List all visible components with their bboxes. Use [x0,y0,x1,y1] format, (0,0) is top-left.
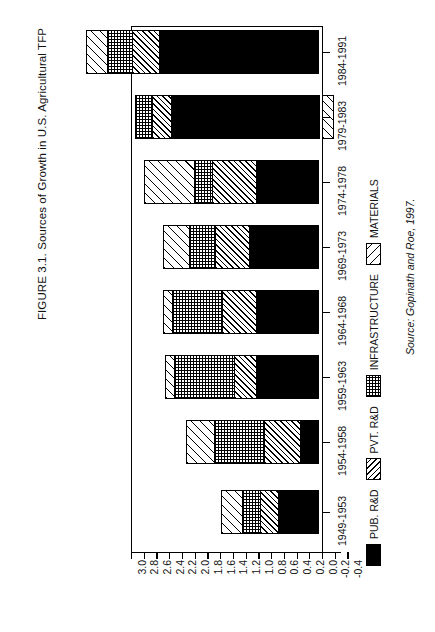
category-tick [322,312,330,313]
bar-segment-pub-r-d [278,490,319,534]
bar-1984-1991 [86,30,322,74]
value-tick-label: -0.4 [352,560,364,600]
bar-segment-pub-r-d [256,355,319,399]
bar-segment-infrastructure [242,490,261,534]
figure-title: FIGURE 3.1. Sources of Growth in U.S. Ag… [36,24,48,324]
legend-label: INFRASTRUCTURE [368,274,380,370]
value-tick [322,552,323,559]
legend-item-pub-r-d: PUB. R&D [366,489,381,566]
value-tick-label: 0.6 [288,560,300,600]
bar-segment-pub-r-d [249,225,319,269]
value-tick [258,552,259,559]
value-tick-label: 1.4 [237,560,249,600]
category-tick [322,52,330,53]
bar-segment-materials [86,30,108,74]
bar-segment-infrastructure [107,30,133,74]
category-tick [322,512,330,513]
value-tick-label: 0.2 [314,560,326,600]
bar-segment-pub-r-d [256,290,319,334]
value-tick-label: 0.4 [301,560,313,600]
bar-1954-1958 [186,420,322,464]
value-tick [207,552,208,559]
bar-1959-1963 [165,355,322,399]
bar-segment-pvt-r-d [222,290,257,334]
bar-segment-infrastructure [172,290,223,334]
value-tick-label: 2.4 [174,560,186,600]
bar-segment-materials [186,420,215,464]
bar-1949-1953 [221,490,322,534]
value-tick-label: 1.8 [212,560,224,600]
category-label-1984-1991: 1984-1991 [336,0,348,86]
bar-segment-pvt-r-d [234,355,257,399]
value-tick [347,552,348,559]
category-tick [322,247,330,248]
bar-segment-infrastructure [189,225,216,269]
value-tick [144,552,145,559]
value-tick [182,552,183,559]
value-tick [220,552,221,559]
bar-segment-pub-r-d [159,30,319,74]
bar-segment-pvt-r-d [260,490,279,534]
bar-segment-pvt-r-d [152,95,172,139]
value-tick [335,552,336,559]
value-tick [297,552,298,559]
bar-1964-1968 [163,290,322,334]
bar-segment-pvt-r-d [212,160,257,204]
bar-segment-pub-r-d [171,95,320,139]
category-tick [322,117,330,118]
value-tick [284,552,285,559]
bar-segment-pvt-r-d [132,30,160,74]
value-tick-label: 3.0 [136,560,148,600]
bar-1969-1973 [163,225,322,269]
legend-swatch-checkerboard [366,375,381,397]
bar-segment-pvt-r-d [264,420,301,464]
value-tick [246,552,247,559]
value-tick-label: 2.0 [199,560,211,600]
value-tick-label: 2.6 [161,560,173,600]
value-tick-label: 1.6 [225,560,237,600]
figure-container: FIGURE 3.1. Sources of Growth in U.S. Ag… [0,0,435,632]
legend-item-pvt-r-d: PVT. R&D [366,406,381,480]
legend-swatch-diagonal-wide [366,243,381,265]
legend-item-materials: MATERIALS [366,179,381,265]
value-tick [309,552,310,559]
bar-segment-materials [163,225,190,269]
bar-segment-pvt-r-d [215,225,250,269]
legend-label: PVT. R&D [368,406,380,453]
value-tick-label: 0.8 [276,560,288,600]
bar-segment-materials [221,490,243,534]
category-tick [322,442,330,443]
value-tick [271,552,272,559]
value-tick [131,552,132,559]
value-tick [169,552,170,559]
legend-item-infrastructure: INFRASTRUCTURE [366,274,381,397]
legend-swatch-solid-black [366,544,381,566]
value-tick [156,552,157,559]
value-tick-label: -0.2 [339,560,351,600]
value-tick-label: 2.2 [186,560,198,600]
value-tick-label: 0.0 [327,560,339,600]
bar-segment-materials [144,160,195,204]
bar-segment-pub-r-d [300,420,319,464]
value-tick-label: 1.2 [250,560,262,600]
bar-segment-infrastructure [174,355,235,399]
value-tick-label: 2.8 [148,560,160,600]
bar-segment-infrastructure [135,95,153,139]
value-tick-label: 1.0 [263,560,275,600]
category-tick [322,182,330,183]
bar-1974-1978 [144,160,322,204]
bar-segment-infrastructure [194,160,213,204]
legend-swatch-diagonal-fine [366,458,381,480]
bar-segment-infrastructure [214,420,265,464]
bar-segment-pub-r-d [256,160,319,204]
legend-label: PUB. R&D [368,489,380,539]
category-tick [322,377,330,378]
legend-label: MATERIALS [368,179,380,238]
source-note: Source: Gopinath and Roe, 1997. [404,199,416,355]
value-tick [233,552,234,559]
bar-1979-1983 [135,95,322,139]
value-tick [195,552,196,559]
